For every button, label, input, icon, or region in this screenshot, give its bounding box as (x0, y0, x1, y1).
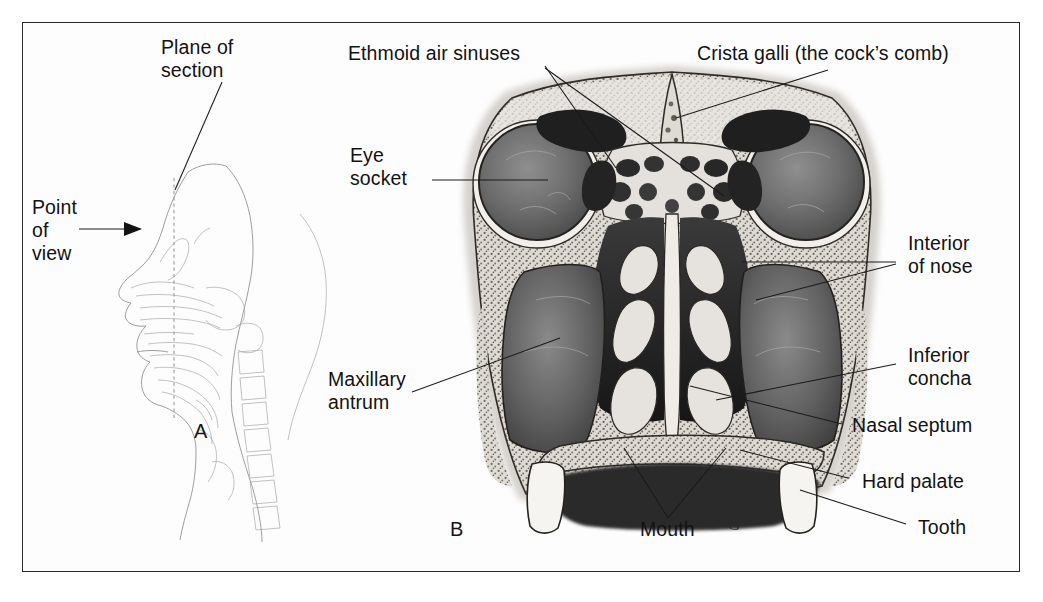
label-eye-socket: Eye socket (350, 144, 407, 190)
panel-letter-b: B (450, 518, 463, 541)
label-interior-of-nose: Interior of nose (908, 232, 973, 278)
tooth-right (779, 462, 817, 533)
maxillary-antrum-left (502, 265, 605, 453)
figure-plate: Plane of section Point of view A (0, 0, 1043, 602)
label-nasal-septum: Nasal septum (852, 414, 972, 437)
label-crista-galli: Crista galli (the cock’s comb) (697, 42, 949, 65)
coronal-section-drawing (412, 66, 906, 533)
tooth-left (527, 462, 565, 533)
nasal-septum (664, 214, 681, 452)
label-ethmoid-air-sinuses: Ethmoid air sinuses (348, 42, 520, 65)
artist-signature: G (728, 515, 740, 535)
label-mouth: Mouth (640, 518, 695, 541)
panel-b-artwork (0, 0, 1043, 602)
label-inferior-concha: Inferior concha (908, 344, 971, 390)
label-maxillary-antrum: Maxillary antrum (328, 368, 406, 414)
label-hard-palate: Hard palate (862, 470, 964, 493)
ethmoid-air-sinuses (601, 143, 744, 224)
label-tooth: Tooth (918, 516, 966, 539)
maxillary-antrum-right (740, 265, 843, 453)
